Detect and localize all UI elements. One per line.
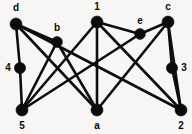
- graph-node-d[interactable]: [10, 18, 22, 30]
- graph-node-1[interactable]: [91, 16, 103, 28]
- graph-edge-b-a: [57, 42, 97, 110]
- graph-node-label-d: d: [13, 3, 19, 13]
- graph-node-label-4: 4: [5, 63, 11, 73]
- graph-node-4[interactable]: [14, 62, 25, 73]
- graph-node-a[interactable]: [91, 104, 103, 116]
- graph-node-c[interactable]: [162, 16, 174, 28]
- graph-node-label-2: 2: [178, 121, 184, 131]
- graph-node-label-b: b: [54, 23, 60, 33]
- graph-edge-4-5: [20, 68, 22, 110]
- graph-canvas: [0, 0, 192, 134]
- graph-node-2[interactable]: [175, 104, 187, 116]
- graph-edge-d-4: [16, 24, 20, 68]
- graph-node-label-5: 5: [19, 121, 25, 131]
- graph-node-label-3: 3: [181, 63, 187, 73]
- edge-layer: [16, 22, 181, 110]
- graph-figure: db1ec435a2: [0, 0, 192, 134]
- graph-node-label-c: c: [165, 2, 171, 12]
- graph-node-e[interactable]: [135, 29, 146, 40]
- graph-node-5[interactable]: [16, 104, 28, 116]
- graph-node-b[interactable]: [52, 37, 63, 48]
- graph-node-label-a: a: [94, 121, 100, 131]
- graph-node-label-e: e: [137, 16, 143, 26]
- graph-node-3[interactable]: [166, 62, 177, 73]
- graph-node-label-1: 1: [94, 2, 100, 12]
- graph-edge-5-e: [22, 34, 140, 110]
